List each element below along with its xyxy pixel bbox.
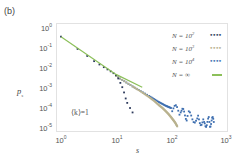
legend-item-n10000: N = 104 •••• [172, 55, 222, 68]
legend-marker-n1000: •••• [210, 45, 222, 52]
legend-item-ninf: N = ∞ [172, 68, 222, 81]
series-line-ninf [61, 37, 142, 88]
series-n102 [60, 36, 133, 114]
series-n104 [115, 75, 215, 128]
legend-marker-n100: •••• [210, 32, 222, 39]
legend-marker-n10000: •••• [210, 58, 222, 65]
legend-item-n1000: N = 103 •••• [172, 42, 222, 55]
legend-marker-ninf [212, 74, 222, 76]
series-n103 [115, 75, 178, 127]
legend: N = 102 •••• N = 103 •••• N = 104 •••• N… [172, 29, 222, 81]
legend-item-n100: N = 102 •••• [172, 29, 222, 42]
